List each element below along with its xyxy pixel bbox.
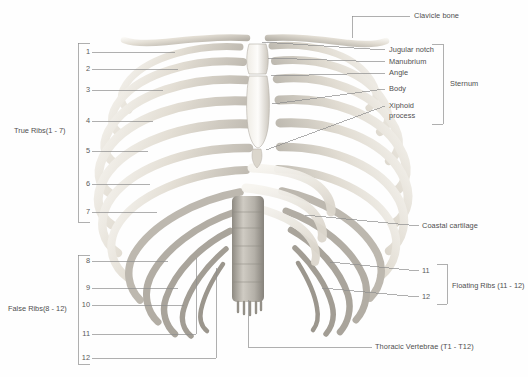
rib-number-9: 9 <box>78 284 90 292</box>
false-ribs-bracket <box>78 255 90 364</box>
sternum-group-label: Sternum <box>450 79 478 89</box>
floating-ribs-group-label: Floating Ribs (11 - 12) <box>452 281 525 291</box>
false-ribs-group-label: False Ribs(8 - 12) <box>8 304 67 314</box>
rib-number-4: 4 <box>78 117 90 125</box>
rib-number-8: 8 <box>78 257 90 265</box>
clavicle-leader <box>352 16 410 38</box>
diagram-canvas: True Ribs(1 - 7) False Ribs(8 - 12) 1 2 … <box>0 0 528 377</box>
coastal-cartilage-label: Coastal cartilage <box>422 221 478 231</box>
jugular-notch-label: Jugular notch <box>389 45 434 55</box>
manubrium-label: Manubrium <box>389 57 426 67</box>
thoracic-vertebrae-label: Thoracic Vertebrae (T1 - T12) <box>375 342 474 352</box>
floating-ribs-bracket <box>437 264 447 304</box>
rib-number-12: 12 <box>74 354 90 362</box>
rib-number-7: 7 <box>78 208 90 216</box>
rib-number-5: 5 <box>78 147 90 155</box>
floating-rib-number-11: 11 <box>422 267 436 275</box>
floating-rib-number-12: 12 <box>422 293 436 301</box>
sternum-bracket <box>432 44 443 124</box>
true-ribs-group-label: True Ribs(1 - 7) <box>14 126 65 136</box>
xiphoid-process-label: process <box>389 111 415 121</box>
rib-number-2: 2 <box>78 65 90 73</box>
annotation-lines <box>0 0 528 377</box>
rib12-leader <box>92 268 216 358</box>
rib-number-1: 1 <box>78 48 90 56</box>
rib-number-6: 6 <box>78 180 90 188</box>
angle-label: Angle <box>389 68 408 78</box>
clavicle-bone-label: Clavicle bone <box>414 11 459 21</box>
rib-number-3: 3 <box>78 86 90 94</box>
rib-number-10: 10 <box>74 301 90 309</box>
xiphoid-label: Xiphoid <box>389 101 414 111</box>
rib-number-11: 11 <box>74 330 90 338</box>
body-label: Body <box>389 84 406 94</box>
rib11-leader <box>92 258 196 334</box>
